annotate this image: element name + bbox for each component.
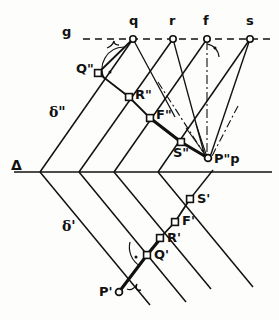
label-s: s [246,14,254,27]
lower-ray-vertex3 [114,172,211,289]
arc-mark-f [207,44,219,57]
ray-r-to-vertex2 [79,39,173,172]
ray-f-to-vertex3 [114,39,207,172]
node-Q-single [144,252,151,259]
label-Pp-double: P"p [214,152,240,165]
node-S-single [187,196,194,203]
figure-canvas: g q r f s Q" R" F" S" P"p S' F' R' Q' P'… [0,0,279,320]
node-q [130,36,136,42]
label-S-double: S" [173,146,189,159]
label-delta-single: δ' [62,219,76,233]
node-F-single [172,219,179,226]
node-Q-double [95,70,102,77]
label-q: q [129,14,138,27]
label-delta-double: δ" [49,105,66,119]
ray-s-to-Ppdouble [210,39,250,157]
label-F-double: F" [156,108,172,121]
label-P-single: P' [99,285,113,298]
node-R-double [126,94,133,101]
node-P-single [116,289,123,296]
label-r: r [169,14,175,27]
node-Pp-double [205,155,212,162]
ray-r-to-Ppdouble [173,39,204,153]
label-g: g [62,25,71,38]
label-Q-single: Q' [154,248,169,261]
node-F-double [147,115,154,122]
label-S-single: S' [197,192,210,205]
label-R-single: R' [167,231,181,244]
label-F-single: F' [182,214,195,227]
arc-mark-Qsingle [129,242,140,266]
node-R-single [157,235,164,242]
node-s [247,36,253,42]
ray-q-to-Ppdouble [133,39,175,117]
brace-mark-upper [107,41,119,48]
label-R-double: R" [135,88,152,101]
label-triangle-delta: Δ [11,158,22,172]
label-Q-double: Q" [76,62,94,75]
node-r [170,36,176,42]
node-f [204,36,210,42]
label-f: f [203,14,209,27]
